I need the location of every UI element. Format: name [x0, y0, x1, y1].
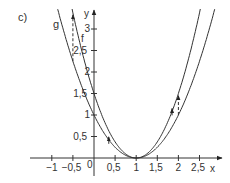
x-tick-label: 2: [176, 163, 182, 173]
x-tick-label: −1: [46, 163, 57, 173]
origin-label: 0: [87, 160, 93, 170]
x-tick-label: −0,5: [62, 163, 82, 173]
y-tick-label: 1,5: [73, 89, 87, 99]
x-tick-label: 1: [133, 163, 139, 173]
axes: [30, 10, 222, 176]
x-tick-label: 2,5: [191, 163, 205, 173]
part-label: c): [18, 12, 27, 23]
curve-label-f: f: [81, 34, 84, 44]
y-tick-label: 2,5: [73, 46, 87, 56]
y-tick-label: 0,5: [73, 132, 87, 142]
curve-g: [72, 9, 200, 158]
y-axis-label: y: [84, 9, 89, 19]
x-tick-label: 0,5: [107, 163, 121, 173]
y-tick-label: 2: [84, 67, 90, 77]
coordinate-plot: [0, 0, 230, 183]
x-tick-label: 1,5: [149, 163, 163, 173]
y-tick-label: 1: [84, 110, 90, 120]
curve-label-g: g: [53, 19, 59, 30]
y-tick-label: 3: [84, 24, 90, 34]
dashed-arrows: [73, 15, 178, 144]
x-axis-label: x: [210, 164, 215, 174]
